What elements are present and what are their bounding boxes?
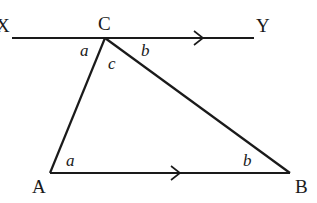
angle-bcy-label: b [141,41,150,60]
side-ca [50,38,105,173]
label-x: X [0,15,10,36]
angle-xca-label: a [80,41,89,60]
angle-cba-label: b [243,151,252,170]
label-y: Y [256,15,270,36]
label-b: B [295,176,308,197]
label-c: C [98,13,111,34]
triangle-diagram: X Y C A B a c b a b [0,0,317,203]
angle-acb-label: c [108,54,116,73]
label-a: A [32,176,46,197]
side-cb [105,38,290,173]
angle-cab-label: a [66,151,75,170]
